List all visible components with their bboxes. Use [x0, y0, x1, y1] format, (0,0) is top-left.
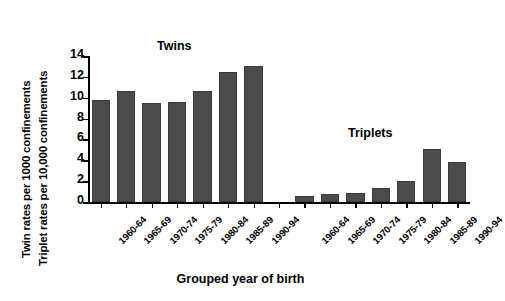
x-tick-mark: [126, 202, 127, 208]
x-tick-label: 1990-94: [269, 214, 301, 246]
x-tick-label: 1960-64: [320, 214, 352, 246]
y-axis-title-line-1: Twin rates per 1000 confinements: [20, 81, 32, 258]
bar: [117, 91, 135, 202]
bar: [448, 162, 466, 202]
x-tick-mark: [152, 202, 153, 208]
group-annotation-triplets: Triplets: [348, 126, 392, 140]
bar: [244, 66, 262, 202]
y-tick-label: 0: [77, 194, 84, 207]
x-tick-mark: [381, 202, 382, 208]
bar: [372, 188, 390, 202]
bar: [346, 193, 364, 202]
bar: [142, 103, 160, 202]
y-tick-label: 6: [77, 131, 84, 144]
x-tick-mark: [330, 202, 331, 208]
x-tick-mark: [406, 202, 407, 208]
y-tick-label: 8: [77, 111, 84, 124]
bar: [321, 194, 339, 202]
bar: [423, 149, 441, 202]
group-annotation-twins: Twins: [157, 39, 192, 53]
y-tick-label: 10: [70, 90, 84, 103]
bar: [295, 196, 313, 202]
x-tick-mark: [177, 202, 178, 208]
plot-area: 02468101214 1960-641965-691970-741975-79…: [88, 56, 470, 202]
y-axis-line: [88, 56, 90, 202]
x-tick-mark: [228, 202, 229, 208]
x-tick-mark: [203, 202, 204, 208]
x-tick-mark: [355, 202, 356, 208]
x-tick-label: 1980-84: [218, 214, 250, 246]
y-tick-label: 14: [70, 48, 84, 61]
x-tick-mark: [457, 202, 458, 208]
bar: [92, 100, 110, 202]
y-axis-title: Twin rates per 1000 confinements Triplet…: [0, 0, 56, 301]
bar: [219, 72, 237, 202]
x-tick-mark: [254, 202, 255, 208]
x-axis-title: Grouped year of birth: [0, 272, 481, 286]
y-tick-label: 2: [77, 173, 84, 186]
bar: [397, 181, 415, 202]
bar: [168, 102, 186, 202]
y-axis-title-line-2: Triplet rates per 10,000 confinements: [37, 71, 49, 266]
bar: [193, 91, 211, 202]
x-tick-mark: [101, 202, 102, 208]
y-tick-label: 12: [70, 69, 84, 82]
y-tick-label: 4: [77, 152, 84, 165]
x-tick-mark-gap: [279, 202, 280, 208]
x-tick-mark: [304, 202, 305, 208]
x-tick-mark: [432, 202, 433, 208]
